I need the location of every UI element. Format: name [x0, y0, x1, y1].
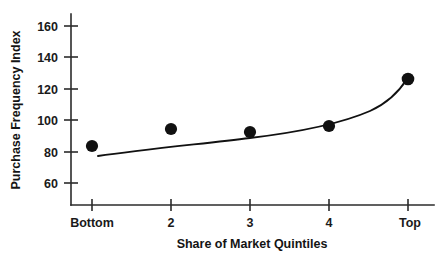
- y-tick-label-100: 100: [37, 114, 58, 128]
- scatter-plot-svg: 160 140 120 100 80 60 Bottom 2 3 4 Top P…: [0, 0, 440, 264]
- fitted-trend-curve: [98, 79, 407, 156]
- x-tick-label-top: Top: [399, 216, 421, 230]
- data-point-2: [165, 123, 177, 135]
- y-tick-label-120: 120: [37, 83, 58, 97]
- y-tick-label-80: 80: [44, 146, 58, 160]
- y-tick-label-140: 140: [37, 51, 58, 65]
- data-point-4: [323, 120, 335, 132]
- y-tick-label-60: 60: [44, 177, 58, 191]
- x-tick-label-2: 2: [168, 216, 175, 230]
- x-tick-label-bottom: Bottom: [70, 216, 114, 230]
- data-point-3: [244, 126, 256, 138]
- y-tick-label-160: 160: [37, 20, 58, 34]
- data-point-bottom: [86, 140, 98, 152]
- y-axis-title: Purchase Frequency Index: [9, 30, 23, 189]
- x-tick-label-4: 4: [326, 216, 333, 230]
- data-point-top: [402, 73, 415, 86]
- x-axis-title: Share of Market Quintiles: [177, 237, 328, 251]
- x-tick-label-3: 3: [247, 216, 254, 230]
- chart-figure: 160 140 120 100 80 60 Bottom 2 3 4 Top P…: [0, 0, 440, 264]
